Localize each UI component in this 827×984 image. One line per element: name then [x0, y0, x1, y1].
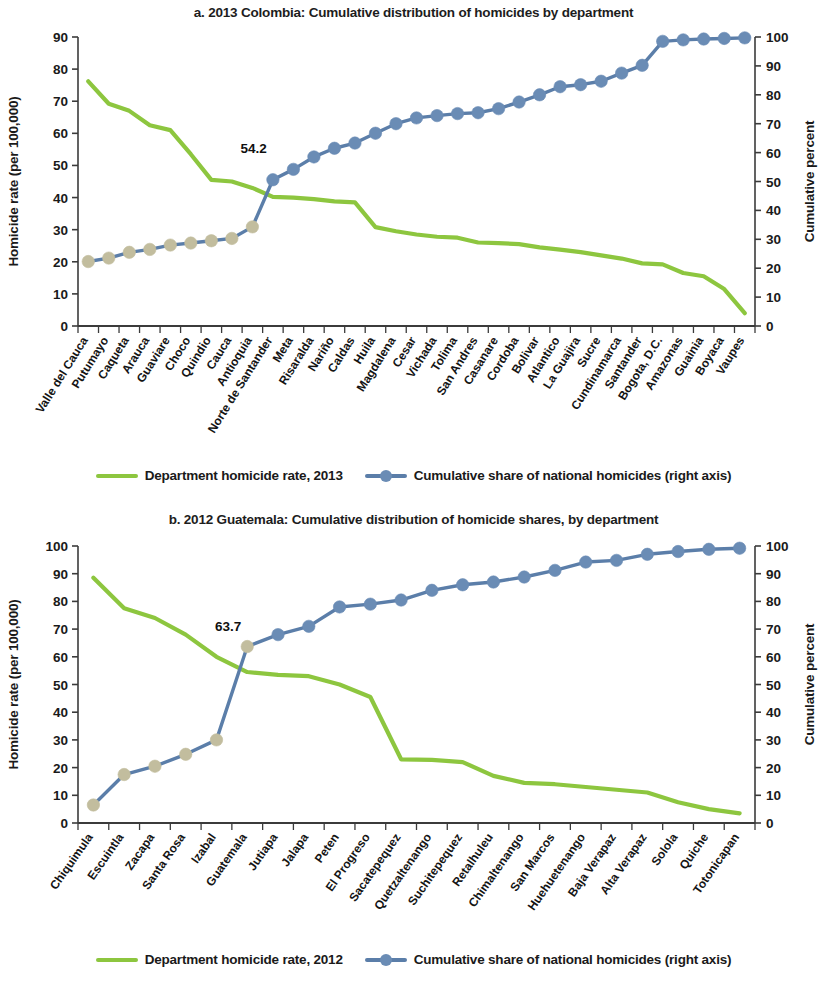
data-point-marker[interactable] — [308, 151, 320, 163]
data-point-marker[interactable] — [513, 96, 525, 108]
right-axis-tick-label: 60 — [766, 650, 781, 665]
left-axis-tick-label: 60 — [53, 126, 68, 141]
data-point-marker[interactable] — [272, 628, 284, 640]
data-point-marker[interactable] — [698, 33, 710, 45]
panel-a-plot: 0102030405060708090010203040506070809010… — [0, 21, 827, 471]
data-point-marker[interactable] — [487, 576, 499, 588]
data-point-marker[interactable] — [369, 127, 381, 139]
x-axis-category-label: Jutiapa — [245, 830, 281, 873]
data-point-marker[interactable] — [287, 163, 299, 175]
data-point-marker[interactable] — [733, 542, 745, 554]
panel-colombia: a. 2013 Colombia: Cumulative distributio… — [0, 0, 827, 510]
data-point-marker[interactable] — [718, 32, 730, 44]
data-point-marker[interactable] — [149, 760, 161, 772]
right-axis-tick-label: 0 — [766, 816, 774, 831]
left-axis-title: Homicide rate (per 100,000) — [6, 599, 21, 769]
left-axis-tick-label: 40 — [53, 705, 68, 720]
legend-item-cum-a: Cumulative share of national homicides (… — [365, 468, 732, 483]
data-point-marker[interactable] — [180, 748, 192, 760]
left-axis-tick-label: 10 — [53, 788, 68, 803]
data-point-marker[interactable] — [364, 598, 376, 610]
left-axis-tick-label: 50 — [53, 678, 68, 693]
data-point-marker[interactable] — [610, 554, 622, 566]
data-point-marker[interactable] — [518, 571, 530, 583]
data-point-marker[interactable] — [641, 548, 653, 560]
data-point-marker[interactable] — [226, 232, 238, 244]
data-point-marker[interactable] — [431, 109, 443, 121]
left-axis-tick-label: 30 — [53, 733, 68, 748]
right-axis-tick-label: 50 — [766, 175, 781, 190]
data-point-marker[interactable] — [241, 640, 253, 652]
right-axis-tick-label: 70 — [766, 117, 781, 132]
left-axis-tick-label: 10 — [53, 287, 68, 302]
data-point-marker[interactable] — [87, 799, 99, 811]
left-axis-tick-label: 20 — [53, 255, 68, 270]
left-axis-tick-label: 70 — [53, 622, 68, 637]
data-point-marker[interactable] — [426, 584, 438, 596]
data-point-marker[interactable] — [656, 35, 668, 47]
data-point-marker[interactable] — [456, 579, 468, 591]
data-point-marker[interactable] — [410, 112, 422, 124]
data-point-marker[interactable] — [677, 34, 689, 46]
data-point-marker[interactable] — [103, 252, 115, 264]
data-point-marker[interactable] — [390, 118, 402, 130]
left-axis-tick-label: 90 — [53, 567, 68, 582]
data-point-marker[interactable] — [303, 620, 315, 632]
right-axis-tick-label: 90 — [766, 567, 781, 582]
data-point-marker[interactable] — [636, 59, 648, 71]
left-axis-title: Homicide rate (per 100,000) — [6, 96, 21, 266]
left-axis-tick-label: 0 — [60, 319, 68, 334]
right-axis-tick-label: 10 — [766, 290, 781, 305]
right-axis-tick-label: 30 — [766, 733, 781, 748]
data-point-marker[interactable] — [615, 67, 627, 79]
data-point-marker[interactable] — [554, 81, 566, 93]
data-point-marker[interactable] — [333, 601, 345, 613]
data-point-marker[interactable] — [82, 255, 94, 267]
right-axis-tick-label: 10 — [766, 788, 781, 803]
panel-a-legend: Department homicide rate, 2013 Cumulativ… — [0, 468, 827, 483]
data-point-annotation: 54.2 — [241, 141, 267, 156]
left-axis-tick-label: 100 — [45, 539, 68, 554]
right-axis-title: Cumulative percent — [802, 623, 817, 745]
left-axis-tick-label: 80 — [53, 62, 68, 77]
data-point-marker[interactable] — [451, 107, 463, 119]
data-point-marker[interactable] — [703, 543, 715, 555]
data-point-marker[interactable] — [580, 556, 592, 568]
legend-item-rate-b: Department homicide rate, 2012 — [96, 952, 343, 967]
data-point-marker[interactable] — [492, 102, 504, 114]
data-point-marker[interactable] — [123, 246, 135, 258]
data-point-marker[interactable] — [595, 75, 607, 87]
data-point-marker[interactable] — [267, 174, 279, 186]
data-point-marker[interactable] — [118, 768, 130, 780]
data-point-marker[interactable] — [472, 107, 484, 119]
data-point-marker[interactable] — [210, 734, 222, 746]
data-point-marker[interactable] — [574, 78, 586, 90]
right-axis-tick-label: 20 — [766, 761, 781, 776]
data-point-marker[interactable] — [349, 137, 361, 149]
x-axis-category-label: Chiquimula — [47, 830, 96, 892]
data-point-marker[interactable] — [185, 237, 197, 249]
chart-b-svg: 0102030405060708090100010203040506070809… — [0, 528, 827, 953]
panel-b-plot: 0102030405060708090100010203040506070809… — [0, 528, 827, 953]
data-point-marker[interactable] — [549, 564, 561, 576]
right-axis-tick-label: 50 — [766, 678, 781, 693]
data-point-marker[interactable] — [144, 243, 156, 255]
legend-line-swatch-green — [96, 474, 138, 478]
data-point-marker[interactable] — [672, 545, 684, 557]
panel-b-title: b. 2012 Guatemala: Cumulative distributi… — [0, 510, 827, 528]
data-point-marker[interactable] — [246, 221, 258, 233]
data-point-marker[interactable] — [533, 89, 545, 101]
data-point-marker[interactable] — [164, 239, 176, 251]
data-point-marker[interactable] — [328, 142, 340, 154]
left-axis-tick-label: 40 — [53, 191, 68, 206]
data-point-marker[interactable] — [739, 32, 751, 44]
left-axis-tick-label: 60 — [53, 650, 68, 665]
right-axis-tick-label: 30 — [766, 232, 781, 247]
left-axis-tick-label: 0 — [60, 816, 68, 831]
right-axis-tick-label: 90 — [766, 59, 781, 74]
legend-line-swatch-green — [96, 958, 138, 962]
right-axis-tick-label: 100 — [766, 30, 789, 45]
data-point-marker[interactable] — [395, 594, 407, 606]
right-axis-tick-label: 100 — [766, 539, 789, 554]
data-point-marker[interactable] — [205, 235, 217, 247]
